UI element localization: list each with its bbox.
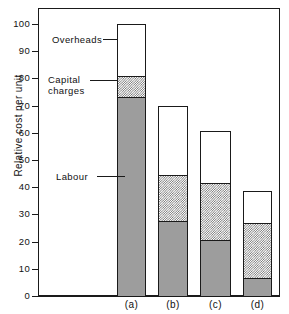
y-tick-100 — [32, 24, 39, 25]
category-label-d: (d) — [238, 299, 277, 310]
y-tick-label-90: 90 — [4, 45, 30, 56]
capital-charges-segment-bar-d — [243, 223, 272, 279]
annotation-overheads-leader — [103, 39, 117, 40]
y-tick-label-30: 30 — [4, 208, 30, 219]
labour-segment-bar-d — [243, 278, 272, 296]
capital-charges-segment-bar-c — [200, 183, 231, 240]
y-tick-label-60: 60 — [4, 127, 30, 138]
y-tick-0 — [32, 296, 39, 297]
annotation-labour-leader — [97, 176, 125, 177]
annotation-capital-charges-leader — [90, 80, 117, 81]
y-tick-label-50: 50 — [4, 154, 30, 165]
y-tick-label-20: 20 — [4, 236, 30, 247]
y-tick-60 — [32, 133, 39, 134]
y-tick-80 — [32, 78, 39, 79]
labour-segment-bar-c — [200, 240, 231, 296]
overheads-segment-bar-d — [243, 191, 272, 222]
y-tick-20 — [32, 242, 39, 243]
y-tick-30 — [32, 214, 39, 215]
y-tick-label-10: 10 — [4, 263, 30, 274]
y-tick-label-100: 100 — [4, 18, 30, 29]
labour-segment-bar-b — [158, 221, 188, 296]
y-tick-label-80: 80 — [4, 72, 30, 83]
bar-b[interactable] — [158, 106, 188, 296]
y-tick-label-0: 0 — [4, 290, 30, 301]
y-tick-70 — [32, 106, 39, 107]
overheads-segment-bar-a — [117, 24, 146, 76]
y-tick-label-70: 70 — [4, 100, 30, 111]
category-label-c: (c) — [196, 299, 235, 310]
y-tick-50 — [32, 160, 39, 161]
y-tick-label-40: 40 — [4, 181, 30, 192]
bar-c[interactable] — [200, 131, 231, 296]
bar-a[interactable] — [117, 24, 146, 296]
category-label-a: (a) — [112, 299, 151, 310]
stacked-bar-chart: Relative cost per unit 100 90 80 70 60 5… — [0, 0, 289, 314]
capital-charges-segment-bar-a — [117, 76, 146, 98]
y-tick-40 — [32, 187, 39, 188]
annotation-capital-charges-line1: Capital — [48, 74, 80, 85]
annotation-capital-charges-line2: charges — [48, 85, 85, 96]
category-label-b: (b) — [153, 299, 193, 310]
annotation-labour: Labour — [56, 171, 88, 182]
capital-charges-segment-bar-b — [158, 175, 188, 221]
overheads-segment-bar-c — [200, 131, 231, 183]
y-tick-90 — [32, 51, 39, 52]
labour-segment-bar-a — [117, 97, 146, 296]
overheads-segment-bar-b — [158, 106, 188, 175]
bar-d[interactable] — [243, 191, 272, 296]
annotation-overheads: Overheads — [52, 34, 102, 45]
y-tick-10 — [32, 269, 39, 270]
